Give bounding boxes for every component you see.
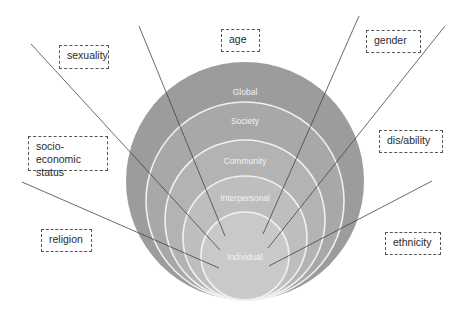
factor-ethnicity: ethnicity [385, 232, 441, 255]
factor-disability: dis/ability [379, 130, 443, 153]
factor-age: age [221, 29, 260, 52]
label-individual: Individual [227, 252, 263, 262]
label-global: Global [233, 87, 258, 97]
label-community: Community [224, 156, 268, 166]
factor-sexuality: sexuality [59, 45, 109, 69]
label-society: Society [231, 116, 260, 126]
intersectionality-diagram: Global Society Community Interpersonal I… [0, 0, 465, 312]
label-interpersonal: Interpersonal [220, 193, 270, 203]
factor-gender: gender [366, 30, 421, 53]
factor-religion: religion [41, 229, 92, 252]
factor-socio-economic-status: socio-economic status [28, 136, 108, 171]
